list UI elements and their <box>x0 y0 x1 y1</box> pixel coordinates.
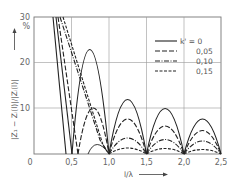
legend-k0: k' = 0 <box>180 37 202 46</box>
y-tick-10: 10 <box>20 104 30 113</box>
y-unit: % <box>22 22 30 31</box>
curve-small-hump <box>88 145 109 155</box>
x-tick-2-5: 2,5 <box>215 158 228 167</box>
x-tick-1-0: 1,0 <box>103 158 116 167</box>
x-arrowhead-icon <box>163 173 168 177</box>
legend-k010: 0,10 <box>196 57 213 66</box>
y-axis-label: |Z₁ − Zᵢ(l)|/|Zᵢ(l)| <box>10 79 19 140</box>
legend-k015: 0,15 <box>196 67 213 76</box>
x-tick-1-5: 1,5 <box>140 158 153 167</box>
x-axis-label: l/λ <box>124 170 134 179</box>
x-tick-2-0: 2,0 <box>178 158 191 167</box>
chart: 30 % 20 10 0 0,5 1,0 1,5 2,0 2,5 l/λ |Z₁… <box>0 0 236 180</box>
curve-k0-peak4 <box>184 119 221 154</box>
y-arrowhead-icon <box>13 28 17 33</box>
y-tick-30: 30 <box>20 13 30 22</box>
x-tick-0: 0 <box>27 158 32 167</box>
x-tick-0-5: 0,5 <box>65 158 78 167</box>
y-tick-20: 20 <box>20 58 30 67</box>
legend-k005: 0,05 <box>196 47 213 56</box>
